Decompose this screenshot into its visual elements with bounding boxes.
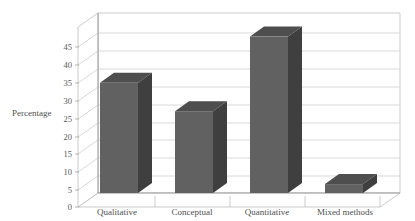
x-category-label-conceptual: Conceptual <box>172 207 213 217</box>
y-tick-label-10: 10 <box>64 167 73 177</box>
bar-conceptual <box>175 101 227 193</box>
y-tick-label-15: 15 <box>64 149 73 159</box>
bar-front-face <box>250 37 288 193</box>
y-tick-label-45: 45 <box>64 42 73 52</box>
bar-front-face <box>100 83 138 193</box>
x-category-label-mixed-methods: Mixed methods <box>317 207 374 217</box>
y-tick-label-40: 40 <box>64 60 73 70</box>
bar-front-face <box>175 111 213 193</box>
y-tick-label-0: 0 <box>68 202 72 212</box>
x-category-label-qualitative: Qualitative <box>97 207 137 217</box>
bar-quantitative <box>250 27 302 193</box>
y-tick-label-25: 25 <box>64 114 73 124</box>
bar-qualitative <box>100 73 152 193</box>
x-category-label-quantitative: Quantitative <box>245 207 290 217</box>
y-axis-title: Percentage <box>12 108 51 118</box>
plot-floor <box>78 193 400 207</box>
y-tick-label-20: 20 <box>64 132 73 142</box>
chart-canvas: 0 5 10 15 20 25 30 35 40 45 Percentage <box>0 0 415 221</box>
bar-side-face <box>288 27 302 193</box>
bar-side-face <box>213 101 227 193</box>
y-tick-label-35: 35 <box>64 78 73 88</box>
y-tick-label-5: 5 <box>68 185 72 195</box>
bar-side-face <box>138 73 152 193</box>
bar-front-face <box>325 184 363 193</box>
bar-chart-figure: 0 5 10 15 20 25 30 35 40 45 Percentage <box>0 0 415 221</box>
y-tick-label-30: 30 <box>64 96 73 106</box>
